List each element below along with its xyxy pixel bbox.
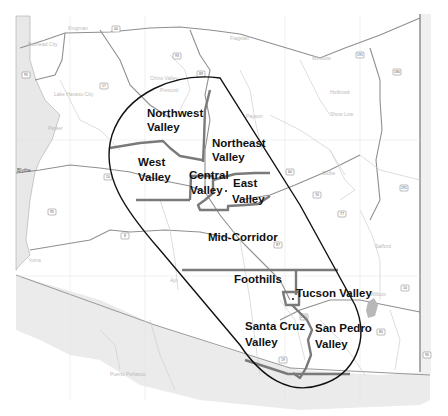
highway-shield: 10 <box>104 174 112 180</box>
place-ajo: Ajo <box>170 277 177 283</box>
svg-text:180: 180 <box>394 70 400 74</box>
svg-text:95: 95 <box>24 73 28 77</box>
label-northwest-valley-2: Valley <box>147 121 180 133</box>
highway-shield: 8 <box>121 233 129 239</box>
highway-shield: 89 <box>197 71 205 77</box>
highway-shield: 95 <box>48 209 56 215</box>
svg-text:191: 191 <box>401 186 407 190</box>
label-santa-cruz-valley: Santa Cruz <box>245 320 305 332</box>
label-east-valley-2: Valley <box>232 193 265 205</box>
label-northeast-valley: Northeast <box>212 137 266 149</box>
highway-shield: 191 <box>400 185 408 191</box>
place-blythe: Blythe <box>17 167 31 173</box>
svg-text:80: 80 <box>379 330 383 334</box>
label-east-valley: East <box>233 177 257 189</box>
place-globe: Globe <box>322 170 336 176</box>
place-safford: Safford <box>375 243 391 249</box>
label-central-valley-2: Valley <box>190 184 223 196</box>
place-parker: Parker <box>48 125 63 131</box>
svg-text:89: 89 <box>199 72 203 76</box>
highway-shield: 95 <box>22 72 30 78</box>
label-northeast-valley-2: Valley <box>212 151 245 163</box>
place-willcox: Willcox <box>370 291 386 297</box>
svg-text:70: 70 <box>315 193 319 197</box>
place-show-low: Show Low <box>330 111 353 117</box>
highway-shield: 70 <box>313 192 321 198</box>
highway-shield: 10 <box>401 285 409 291</box>
svg-text:19: 19 <box>281 358 285 362</box>
label-foothills: Foothills <box>234 273 282 285</box>
place-payson: Payson <box>246 113 263 119</box>
svg-text:77: 77 <box>340 212 344 216</box>
region-map: Bullhead City Kingman Lake Havasu City P… <box>0 0 448 416</box>
place-yuma: Yuma <box>28 257 41 263</box>
svg-text:40: 40 <box>114 27 118 31</box>
svg-text:10: 10 <box>403 286 407 290</box>
label-central-valley: Central <box>189 169 229 181</box>
city-dot <box>225 190 227 192</box>
label-west-valley-2: Valley <box>138 171 171 183</box>
place-prescott: Prescott <box>160 87 179 93</box>
svg-text:10: 10 <box>106 175 110 179</box>
svg-text:90: 90 <box>425 353 429 357</box>
place-winslow: Winslow <box>312 55 331 61</box>
svg-text:93: 93 <box>175 54 179 58</box>
place-puerto-penasco: Puerto Peñasco <box>110 371 146 377</box>
label-santa-cruz-valley-2: Valley <box>245 336 278 348</box>
svg-text:191: 191 <box>357 53 363 57</box>
highway-shield: 191 <box>356 52 364 58</box>
label-west-valley: West <box>138 156 165 168</box>
place-lake-havasu-city: Lake Havasu City <box>54 91 94 97</box>
label-northwest-valley: Northwest <box>147 107 203 119</box>
place-kingman: Kingman <box>68 25 88 31</box>
highway-shield: 180 <box>393 69 401 75</box>
svg-text:17: 17 <box>102 84 106 88</box>
svg-text:8: 8 <box>124 234 126 238</box>
label-san-pedro-valley-2: Valley <box>315 338 348 350</box>
highway-shield: 77 <box>338 211 346 217</box>
svg-text:87: 87 <box>276 243 280 247</box>
place-chino-valley: Chino Valley <box>150 75 178 81</box>
place-flagstaff: Flagstaff <box>230 35 250 41</box>
place-bullhead-city: Bullhead City <box>28 41 58 47</box>
svg-text:60: 60 <box>288 170 292 174</box>
svg-text:95: 95 <box>50 210 54 214</box>
label-mid-corridor: Mid-Corridor <box>208 231 278 243</box>
highway-shield: 60 <box>286 169 294 175</box>
highway-shield: 17 <box>100 83 108 89</box>
highway-shield: 93 <box>173 53 181 59</box>
city-dot <box>292 298 294 300</box>
neighbor-state-east <box>421 14 431 374</box>
place-holbrook: Holbrook <box>330 89 351 95</box>
label-tucson-valley: Tucson Valley <box>296 287 372 299</box>
highway-shield: 40 <box>112 26 120 32</box>
highway-shield: 80 <box>377 329 385 335</box>
highway-shield: 90 <box>423 352 431 358</box>
label-san-pedro-valley: San Pedro <box>315 322 372 334</box>
highway-shield: 19 <box>279 357 287 363</box>
